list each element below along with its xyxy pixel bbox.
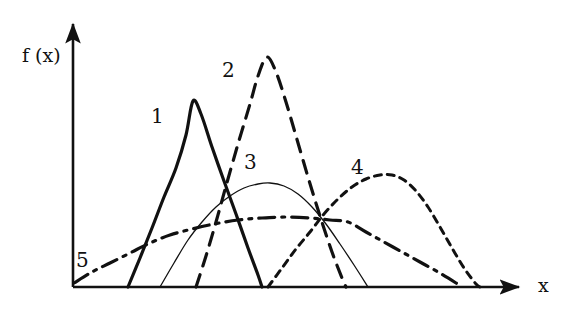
- curve-group: [74, 57, 480, 287]
- curve-4: [268, 174, 480, 287]
- curve-label-3: 3: [244, 152, 257, 172]
- membership-function-diagram: f (x) x 1 2 3 4 5: [0, 0, 575, 319]
- curve-label-5: 5: [76, 250, 89, 270]
- curve-label-2: 2: [222, 60, 235, 80]
- curve-3: [160, 183, 368, 287]
- y-axis-label: f (x): [22, 46, 61, 65]
- x-axis-label: x: [538, 276, 549, 295]
- curve-label-4: 4: [351, 157, 364, 177]
- curve-2: [196, 57, 346, 287]
- curve-label-1: 1: [151, 106, 164, 126]
